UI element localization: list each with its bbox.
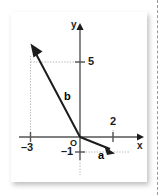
y-axis-label: y xyxy=(71,20,77,30)
page-cut-dashed-rule xyxy=(157,0,158,195)
plot-svg xyxy=(11,12,147,182)
vector-b-label-text: b xyxy=(64,90,71,102)
figure-card: –3 2 5 –1 x y O b a xyxy=(11,12,147,182)
figure-container: –3 2 5 –1 x y O b a xyxy=(0,0,163,195)
x-axis-label: x xyxy=(137,141,143,151)
vector-a-arrowhead xyxy=(105,147,116,156)
x-tick-neg3-label: –3 xyxy=(21,142,33,153)
y-tick-5-label: 5 xyxy=(88,56,94,67)
vector-a-label-text: a xyxy=(98,149,104,161)
x-tick-2-label: 2 xyxy=(110,116,116,127)
origin-label: O xyxy=(70,139,77,148)
vector-b-label: b xyxy=(64,86,71,104)
y-axis-arrowhead xyxy=(76,23,83,30)
vector-b-arrowhead xyxy=(31,44,43,58)
coordinate-plot: –3 2 5 –1 x y O b a xyxy=(11,12,147,182)
vector-a-label: a xyxy=(98,145,104,163)
vector-b-shaft xyxy=(35,52,80,137)
vector-b-glyph xyxy=(31,44,81,138)
